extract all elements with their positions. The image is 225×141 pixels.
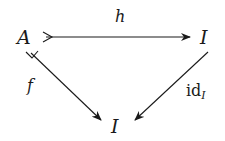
edge-label-h: h	[115, 7, 125, 26]
edge-label-id: idI	[186, 81, 206, 102]
edge-label-id-subscript: I	[200, 89, 206, 102]
edge-label-f: f	[26, 76, 36, 95]
node-a: A	[15, 26, 31, 48]
commutative-diagram: A I I h f idI	[0, 0, 225, 141]
edge-f	[26, 51, 101, 120]
edge-label-id-main: id	[186, 81, 201, 100]
edge-h	[43, 32, 190, 42]
node-i-bottom: I	[110, 115, 119, 137]
node-i-top: I	[199, 26, 208, 48]
